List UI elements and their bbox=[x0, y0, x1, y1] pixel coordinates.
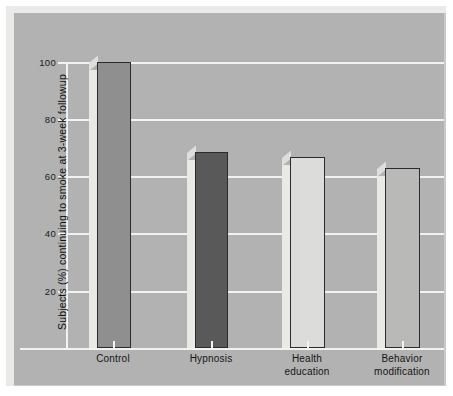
y-tick-label-40: 40 bbox=[0, 229, 56, 239]
y-axis-title: Subjects (%) continuing to smoke at 3-we… bbox=[56, 52, 68, 352]
bar-control[interactable] bbox=[97, 62, 131, 348]
y-tick-label-60: 60 bbox=[0, 172, 56, 182]
x-axis-label-behavior-modification-line1: Behavior bbox=[352, 352, 452, 365]
y-tick-label-60-wrap: 60 bbox=[0, 172, 56, 182]
y-tick-label-100: 100 bbox=[0, 58, 56, 68]
x-axis-label-health-education-line2: education bbox=[257, 365, 357, 378]
x-tick-mark-behavior-modification bbox=[402, 341, 404, 349]
bar-hypnosis[interactable] bbox=[195, 152, 228, 348]
bar-behavior-modification[interactable] bbox=[385, 168, 420, 348]
plot-area: 100 80 60 40 20 Subjects (%) continuing … bbox=[0, 0, 453, 396]
x-tick-mark-hypnosis bbox=[211, 341, 213, 349]
x-axis-label-hypnosis: Hypnosis bbox=[161, 352, 261, 365]
x-tick-mark-health-education bbox=[307, 341, 309, 349]
x-axis-label-behavior-modification-line2: modification bbox=[352, 365, 452, 378]
x-axis-label-control: Control bbox=[63, 352, 163, 365]
x-axis-spine bbox=[20, 348, 444, 350]
y-tick-label-20-wrap: 20 bbox=[0, 287, 56, 297]
x-tick-mark-control bbox=[113, 341, 115, 349]
y-tick-label-100-wrap: 100 bbox=[0, 58, 56, 68]
y-tick-label-40-wrap: 40 bbox=[0, 229, 56, 239]
y-tick-label-80-wrap: 80 bbox=[0, 115, 56, 125]
bar-health-education[interactable] bbox=[290, 157, 325, 348]
y-tick-label-20: 20 bbox=[0, 287, 56, 297]
x-axis-label-health-education-line1: Health bbox=[257, 352, 357, 365]
bar-chart-figure: 100 80 60 40 20 Subjects (%) continuing … bbox=[0, 0, 453, 396]
y-tick-label-80: 80 bbox=[0, 115, 56, 125]
